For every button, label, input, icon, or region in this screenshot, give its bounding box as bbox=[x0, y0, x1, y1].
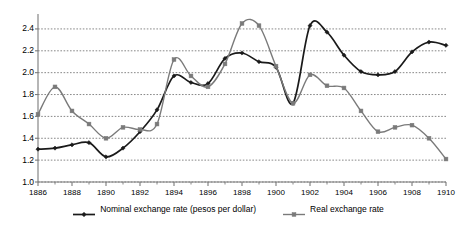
data-point-marker bbox=[87, 122, 91, 126]
data-point-marker bbox=[155, 122, 159, 126]
y-tick-label-1.8: 1.8 bbox=[8, 90, 34, 99]
data-point-marker bbox=[172, 58, 176, 62]
data-point-marker bbox=[240, 51, 244, 55]
data-point-marker bbox=[36, 112, 40, 116]
x-tick-label-1904: 1904 bbox=[329, 189, 359, 197]
x-tick-label-1892: 1892 bbox=[125, 189, 155, 197]
data-point-marker bbox=[376, 130, 380, 134]
legend-diamond-marker-icon bbox=[72, 205, 96, 214]
data-point-marker bbox=[342, 86, 346, 90]
data-point-marker bbox=[121, 125, 125, 129]
series-nominal-exchange-rate bbox=[36, 21, 448, 159]
data-point-marker bbox=[189, 74, 193, 78]
legend-item-real-exchange-rate[interactable]: Real exchange rate bbox=[282, 205, 384, 214]
exchange-rate-line-chart: 1.01.21.41.61.82.02.22.4 188618881890189… bbox=[0, 0, 456, 228]
data-point-marker bbox=[444, 157, 448, 161]
x-tick-label-1894: 1894 bbox=[159, 189, 189, 197]
data-point-marker bbox=[104, 136, 108, 140]
y-tick-label-2.2: 2.2 bbox=[8, 46, 34, 55]
data-point-marker bbox=[325, 84, 329, 88]
data-point-marker bbox=[410, 123, 414, 127]
data-point-marker bbox=[53, 85, 57, 89]
data-point-marker bbox=[223, 62, 227, 66]
data-point-marker bbox=[291, 101, 295, 105]
chart-legend: Nominal exchange rate (pesos per dollar)… bbox=[0, 205, 456, 214]
legend-item-label: Real exchange rate bbox=[310, 205, 384, 214]
data-point-marker bbox=[240, 22, 244, 26]
legend-square-marker-icon bbox=[282, 205, 306, 214]
series-real-exchange-rate bbox=[36, 19, 448, 161]
data-point-marker bbox=[70, 109, 74, 113]
data-point-marker bbox=[359, 109, 363, 113]
x-tick-label-1908: 1908 bbox=[397, 189, 427, 197]
data-point-marker bbox=[427, 40, 431, 44]
legend-item-nominal-exchange-rate[interactable]: Nominal exchange rate (pesos per dollar) bbox=[72, 205, 256, 214]
x-tick-label-1910: 1910 bbox=[431, 189, 456, 197]
data-point-marker bbox=[444, 43, 448, 47]
y-tick-label-2.0: 2.0 bbox=[8, 68, 34, 77]
x-tick-label-1888: 1888 bbox=[57, 189, 87, 197]
data-point-marker bbox=[70, 143, 74, 147]
y-tick-label-1.4: 1.4 bbox=[8, 134, 34, 143]
data-point-marker bbox=[206, 85, 210, 89]
data-point-marker bbox=[257, 24, 261, 28]
data-point-marker bbox=[308, 73, 312, 77]
x-tick-label-1902: 1902 bbox=[295, 189, 325, 197]
y-tick-label-1.6: 1.6 bbox=[8, 112, 34, 121]
data-point-marker bbox=[53, 146, 57, 150]
data-point-marker bbox=[36, 147, 40, 151]
x-tick-label-1896: 1896 bbox=[193, 189, 223, 197]
y-tick-label-2.4: 2.4 bbox=[8, 24, 34, 33]
data-point-marker bbox=[393, 125, 397, 129]
data-point-marker bbox=[376, 73, 380, 77]
x-tick-label-1906: 1906 bbox=[363, 189, 393, 197]
data-point-marker bbox=[274, 64, 278, 68]
x-tick-label-1890: 1890 bbox=[91, 189, 121, 197]
y-tick-label-1.2: 1.2 bbox=[8, 156, 34, 165]
x-tick-label-1886: 1886 bbox=[23, 189, 53, 197]
series-line bbox=[38, 21, 446, 157]
x-tick-label-1898: 1898 bbox=[227, 189, 257, 197]
x-tick-label-1900: 1900 bbox=[261, 189, 291, 197]
legend-item-label: Nominal exchange rate (pesos per dollar) bbox=[100, 205, 256, 214]
data-point-marker bbox=[427, 136, 431, 140]
y-tick-label-1.0: 1.0 bbox=[8, 178, 34, 187]
data-point-marker bbox=[138, 128, 142, 132]
